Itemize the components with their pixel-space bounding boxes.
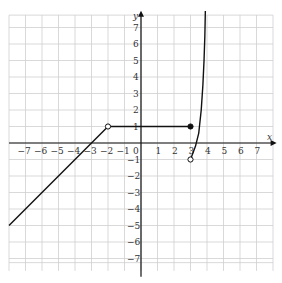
graph-curve <box>191 11 206 160</box>
y-tick-label: −6 <box>127 237 141 247</box>
y-tick-label: −2 <box>127 171 140 181</box>
x-tick-label: −5 <box>51 146 65 156</box>
y-tick-label: −5 <box>127 221 141 231</box>
x-tick-label: −2 <box>100 146 113 156</box>
x-tick-label: −4 <box>67 146 81 156</box>
open-point-marker <box>188 157 193 162</box>
y-tick-label: −1 <box>127 155 140 165</box>
y-tick-label: 6 <box>133 39 139 49</box>
function-graph <box>9 11 205 226</box>
y-tick-label: 7 <box>133 23 139 33</box>
x-tick-label: 1 <box>156 146 162 156</box>
x-tick-label: 6 <box>238 146 244 156</box>
x-axis-label: x <box>267 132 272 142</box>
closed-point-marker <box>188 124 193 129</box>
axes <box>9 11 277 277</box>
open-point-marker <box>105 124 110 129</box>
x-tick-label: −3 <box>84 146 98 156</box>
x-tick-label: −7 <box>18 146 32 156</box>
x-tick-label: 4 <box>205 146 211 156</box>
y-tick-label: 2 <box>133 105 139 115</box>
y-axis-arrow-icon <box>138 11 144 17</box>
graph-svg: −7−6−5−4−3−2−101234567−7−6−5−4−3−2−11234… <box>0 0 282 283</box>
y-tick-label: 3 <box>133 89 139 99</box>
y-axis-label: y <box>132 11 139 21</box>
graph: −7−6−5−4−3−2−101234567−7−6−5−4−3−2−11234… <box>0 0 282 283</box>
x-tick-label: 5 <box>222 146 228 156</box>
y-tick-label: 5 <box>133 56 139 66</box>
x-tick-label: 2 <box>172 146 178 156</box>
y-tick-label: −3 <box>127 188 141 198</box>
x-tick-label: −6 <box>34 146 48 156</box>
y-tick-label: −4 <box>127 204 141 214</box>
y-tick-label: 4 <box>133 72 139 82</box>
x-tick-label: 7 <box>255 146 261 156</box>
y-tick-label: −7 <box>127 254 141 264</box>
